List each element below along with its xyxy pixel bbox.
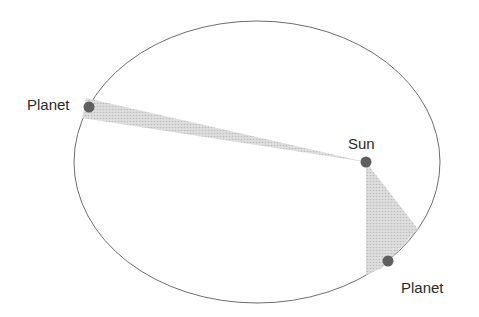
sun-label: Sun xyxy=(348,135,375,152)
sun-body xyxy=(361,157,372,168)
planet-body-right xyxy=(383,256,394,267)
swept-area-long xyxy=(82,98,366,162)
planet-label-right: Planet xyxy=(401,279,444,296)
planet-label-left: Planet xyxy=(27,96,70,113)
kepler-diagram xyxy=(0,0,479,317)
planet-body-left xyxy=(84,102,95,113)
